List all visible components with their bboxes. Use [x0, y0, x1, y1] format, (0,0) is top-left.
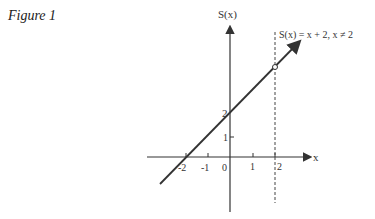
y-tick-2: 2 [222, 107, 228, 119]
x-tick-1: 1 [250, 161, 255, 172]
x-tick-2: 2 [277, 161, 282, 172]
x-axis-label: x [313, 151, 319, 163]
x-tick-neg1: -1 [201, 162, 209, 173]
function-label: S(x) = x + 2, x ≠ 2 [279, 29, 353, 41]
y-axis-label: S(x) [218, 8, 237, 21]
y-tick-1: 1 [223, 132, 228, 143]
graph: S(x) x S(x) = x + 2, x ≠ 2 -2 -1 0 1 2 1… [0, 0, 375, 219]
hole-point [273, 65, 278, 70]
x-tick-0: 0 [222, 162, 227, 173]
x-tick-neg2: -2 [178, 162, 186, 173]
